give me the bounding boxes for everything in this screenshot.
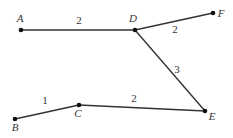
edge-weight-label: 2	[131, 92, 137, 104]
node-f	[211, 11, 216, 16]
edge-c-e	[79, 105, 205, 111]
node-d	[133, 28, 138, 33]
node-labels-layer: ADFBCE	[12, 7, 225, 133]
node-label-e: E	[208, 110, 216, 122]
edge-d-e	[135, 30, 205, 111]
edge-weight-label: 2	[172, 23, 178, 35]
node-a	[19, 28, 24, 33]
node-label-d: D	[128, 12, 137, 24]
node-label-c: C	[74, 107, 82, 119]
node-label-a: A	[16, 12, 24, 24]
edge-weight-label: 1	[42, 94, 48, 106]
node-label-b: B	[12, 121, 19, 133]
node-label-f: F	[217, 7, 225, 19]
node-e	[203, 109, 208, 114]
edge-weight-label: 2	[76, 14, 82, 26]
graph-diagram: 22312 ADFBCE	[0, 0, 233, 138]
edge-labels-layer: 22312	[42, 14, 180, 106]
edge-b-c	[15, 105, 79, 119]
edge-weight-label: 3	[174, 63, 180, 75]
